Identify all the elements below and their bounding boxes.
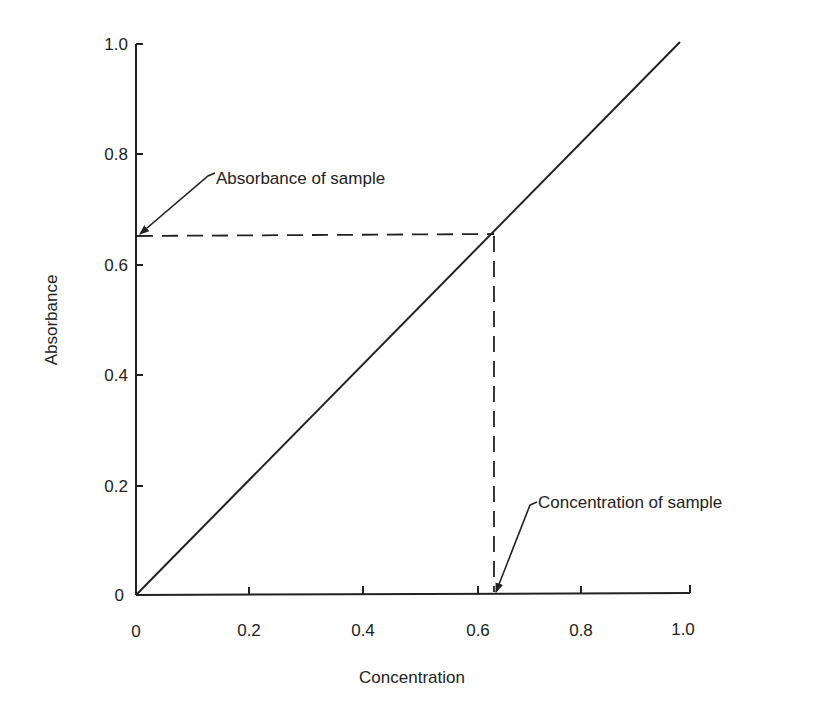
svg-text:0.4: 0.4 [104, 366, 128, 385]
x-axis [136, 585, 690, 595]
absorbance-guide-line [137, 234, 494, 236]
svg-text:0.8: 0.8 [569, 621, 593, 640]
absorbance-annotation: Absorbance of sample [140, 169, 385, 234]
x-axis-label: Concentration [359, 668, 465, 687]
absorbance-annotation-label: Absorbance of sample [216, 169, 385, 188]
svg-text:1.0: 1.0 [104, 35, 128, 54]
svg-text:0.2: 0.2 [104, 477, 128, 496]
svg-text:0: 0 [131, 622, 140, 641]
calibration-chart: 1.0 0.8 0.6 0.4 0.2 0 0 0.2 0.4 0.6 0.8 … [0, 0, 821, 716]
svg-text:1.0: 1.0 [671, 620, 695, 639]
concentration-annotation-label: Concentration of sample [538, 493, 722, 512]
concentration-annotation: Concentration of sample [496, 493, 722, 592]
x-tick-labels: 0 0.2 0.4 0.6 0.8 1.0 [131, 620, 695, 641]
svg-text:0.6: 0.6 [104, 256, 128, 275]
y-tick-labels: 1.0 0.8 0.6 0.4 0.2 0 [104, 35, 128, 605]
svg-text:0: 0 [115, 586, 124, 605]
svg-text:0.2: 0.2 [237, 621, 261, 640]
svg-text:0.4: 0.4 [351, 621, 375, 640]
y-axis [136, 44, 143, 595]
y-axis-label: Absorbance [42, 275, 61, 366]
svg-text:0.6: 0.6 [466, 621, 490, 640]
svg-text:0.8: 0.8 [104, 145, 128, 164]
